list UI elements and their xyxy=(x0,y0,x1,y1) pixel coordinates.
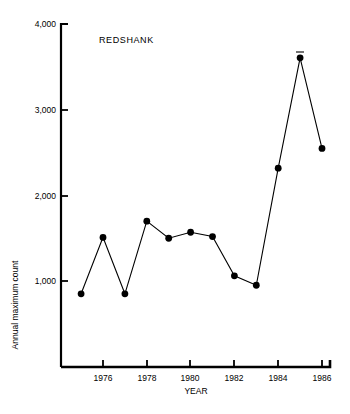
data-point-1985 xyxy=(297,54,304,61)
data-point-1975 xyxy=(78,290,85,297)
x-tick-label-1976: 1976 xyxy=(94,373,113,383)
data-point-1980 xyxy=(187,229,194,236)
data-point-1978 xyxy=(143,218,150,225)
data-point-1986 xyxy=(319,145,326,152)
x-tick-label-1986: 1986 xyxy=(313,373,332,383)
x-tick-label-1978: 1978 xyxy=(138,373,157,383)
chart-title: REDSHANK xyxy=(99,35,154,45)
data-point-1984 xyxy=(275,165,282,172)
data-point-1977 xyxy=(122,290,129,297)
y-axis-title: Annual maximum count xyxy=(10,260,20,349)
data-point-group xyxy=(78,54,326,297)
x-tick-label-1984: 1984 xyxy=(269,373,288,383)
y-tick-label-2000: 2,000 xyxy=(35,191,57,201)
x-tick-label-1982: 1982 xyxy=(225,373,244,383)
y-axis-tick-labels: 4,000 3,000 2,000 1,000 xyxy=(35,19,57,286)
chart-figure: 4,000 3,000 2,000 1,000 1976 1978 xyxy=(0,0,350,414)
data-series-line xyxy=(81,58,322,294)
data-point-1983 xyxy=(253,282,260,289)
y-tick-label-4000: 4,000 xyxy=(35,19,57,29)
data-point-1981 xyxy=(209,233,216,240)
data-point-1979 xyxy=(165,235,172,242)
y-tick-label-3000: 3,000 xyxy=(35,105,57,115)
y-tick-label-1000: 1,000 xyxy=(35,276,57,286)
data-point-1982 xyxy=(231,272,238,279)
x-axis-tick-labels: 1976 1978 1980 1982 1984 1986 xyxy=(94,373,332,383)
chart-plot-area: 4,000 3,000 2,000 1,000 1976 1978 xyxy=(0,0,350,414)
x-tick-label-1980: 1980 xyxy=(181,373,200,383)
data-point-1976 xyxy=(100,234,107,241)
x-axis-title: YEAR xyxy=(184,386,207,396)
x-axis-spine xyxy=(61,360,330,367)
